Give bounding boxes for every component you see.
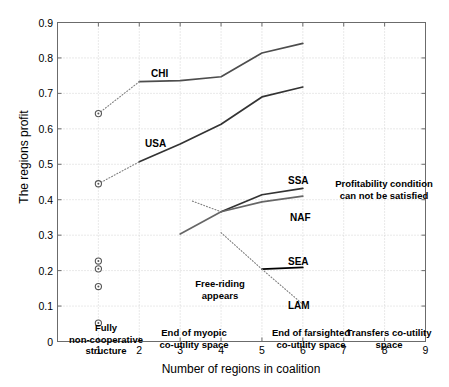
series-label-sea: SEA xyxy=(288,256,309,267)
series-line-sea-dotted xyxy=(221,233,262,270)
series-label-naf: NAF xyxy=(290,212,311,223)
y-tick-label: 0.8 xyxy=(25,52,53,64)
data-point-marker xyxy=(95,266,101,272)
data-point-marker xyxy=(95,110,101,116)
annotation-5: Transfers co-utility space xyxy=(319,327,449,350)
series-line-ssa-dotted xyxy=(192,201,221,212)
y-tick-label: 0.9 xyxy=(25,17,53,29)
annotation-0: Profitability condition can not be satis… xyxy=(314,178,449,201)
data-point-marker xyxy=(95,181,101,187)
annotation-1: Free-riding appears xyxy=(150,278,290,301)
series-line-usa-dotted xyxy=(98,162,139,184)
data-point-marker xyxy=(95,258,101,264)
y-tick-label: 0.2 xyxy=(25,265,53,277)
chart-figure: 00.10.20.30.40.50.60.70.80.9 123456789 T… xyxy=(0,0,449,387)
x-axis-label: Number of regions in coalition xyxy=(57,362,425,376)
series-label-usa: USA xyxy=(145,138,166,149)
series-line-naf xyxy=(180,196,303,234)
y-tick-label: 0.1 xyxy=(25,300,53,312)
series-label-lam: LAM xyxy=(288,300,310,311)
series-line-sea xyxy=(262,267,303,269)
series-label-ssa: SSA xyxy=(288,175,309,186)
series-label-chi: CHI xyxy=(151,68,168,79)
data-point-marker xyxy=(95,283,101,289)
series-line-chi-dotted xyxy=(98,82,139,114)
y-axis-label: The regions profit xyxy=(17,67,31,247)
